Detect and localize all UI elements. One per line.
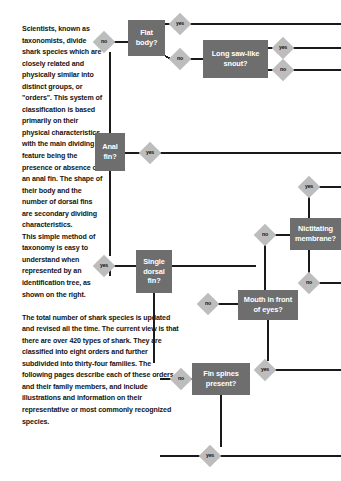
decision-fin-spines-no-label: no	[171, 369, 191, 389]
decision-mouth-front-yes-label: yes	[255, 360, 275, 380]
decision-mouth-front-yes[interactable]: yes	[255, 360, 275, 380]
decision-anal-fin-no-label: no	[94, 32, 114, 52]
page-canvas: Scientists, known as taxonomists, divide…	[0, 0, 341, 481]
node-single-dorsal-fin[interactable]: Single dorsal fin?	[136, 250, 172, 293]
decision-flat-body-no-label: no	[170, 49, 190, 69]
decision-saw-snout-no[interactable]: no	[273, 60, 293, 80]
decision-nictitating-no[interactable]: no	[299, 273, 319, 293]
node-flat-body-label: Flat body?	[131, 28, 162, 47]
decision-nictitating-yes[interactable]: yes	[299, 177, 319, 197]
node-nictitating-membrane-label: Nictitating membrane?	[293, 224, 338, 243]
decision-mouth-front-no-label: no	[198, 294, 218, 314]
decision-mouth-front-no[interactable]: no	[198, 294, 218, 314]
decision-fin-spines-yes[interactable]: yes	[200, 446, 220, 466]
decision-fin-spines-yes-label: yes	[200, 446, 220, 466]
node-long-saw-like-snout[interactable]: Long saw-like snout?	[203, 40, 268, 78]
decision-flat-body-yes-label: yes	[170, 14, 190, 34]
decision-single-dorsal-no-label: no	[255, 225, 275, 245]
node-long-saw-like-snout-label: Long saw-like snout?	[206, 49, 265, 68]
decision-anal-fin-yes-label: yes	[140, 143, 160, 163]
decision-single-dorsal-yes[interactable]: yes	[94, 256, 114, 276]
node-flat-body[interactable]: Flat body?	[128, 20, 165, 56]
node-mouth-in-front-of-eyes-label: Mouth in front of eyes?	[241, 295, 295, 314]
node-mouth-in-front-of-eyes[interactable]: Mouth in front of eyes?	[238, 290, 298, 320]
decision-single-dorsal-yes-label: yes	[94, 256, 114, 276]
node-fin-spines-present-label: Fin spines present?	[195, 369, 247, 388]
decision-flat-body-no[interactable]: no	[170, 49, 190, 69]
decision-nictitating-yes-label: yes	[299, 177, 319, 197]
node-single-dorsal-fin-label: Single dorsal fin?	[139, 257, 169, 286]
decision-saw-snout-yes[interactable]: yes	[273, 38, 293, 58]
decision-single-dorsal-no[interactable]: no	[255, 225, 275, 245]
decision-anal-fin-no[interactable]: no	[94, 32, 114, 52]
node-anal-fin-label: Anal fin?	[98, 142, 122, 161]
decision-fin-spines-no[interactable]: no	[171, 369, 191, 389]
node-fin-spines-present[interactable]: Fin spines present?	[192, 363, 250, 395]
node-nictitating-membrane[interactable]: Nictitating membrane?	[290, 218, 341, 250]
decision-nictitating-no-label: no	[299, 273, 319, 293]
decision-anal-fin-yes[interactable]: yes	[140, 143, 160, 163]
node-anal-fin[interactable]: Anal fin?	[95, 133, 125, 171]
decision-flat-body-yes[interactable]: yes	[170, 14, 190, 34]
decision-saw-snout-yes-label: yes	[273, 38, 293, 58]
decision-saw-snout-no-label: no	[273, 60, 293, 80]
